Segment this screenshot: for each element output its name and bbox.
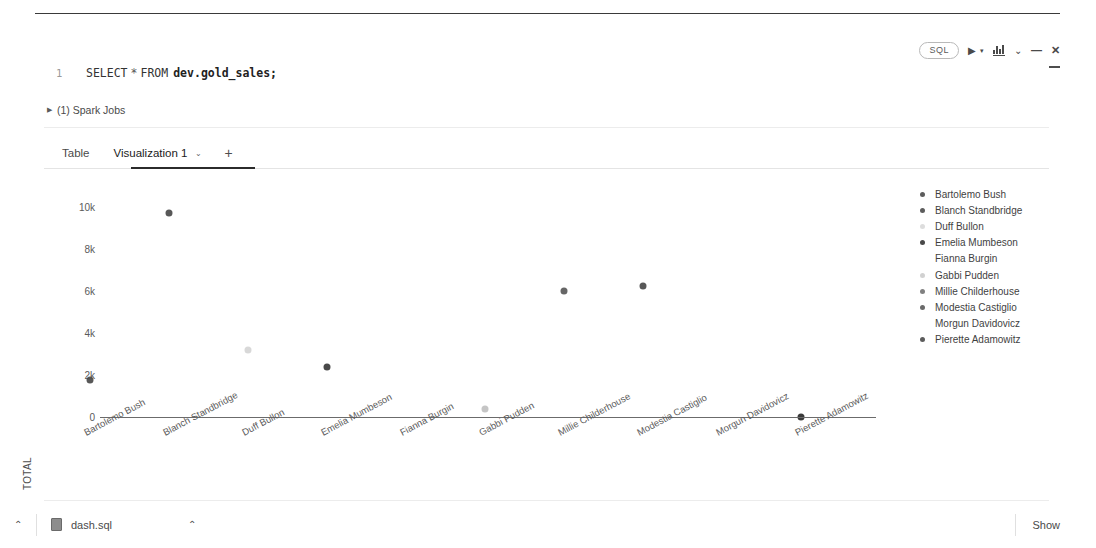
data-point[interactable]	[323, 363, 330, 370]
bottom-bar-right: Show	[1015, 514, 1096, 536]
legend-item[interactable]: Fianna Burgin	[920, 251, 1090, 267]
scrollbar-handle[interactable]	[1049, 66, 1060, 68]
chevron-down-icon[interactable]: ⌄	[195, 149, 202, 158]
y-tick-label: 4k	[53, 328, 95, 339]
spark-jobs-label: (1) Spark Jobs	[57, 104, 125, 116]
results-divider	[44, 127, 1049, 128]
legend-item[interactable]: Millie Childerhouse	[920, 283, 1090, 299]
result-tabs: Table Visualization 1 ⌄ +	[50, 138, 1050, 168]
chevron-down-icon[interactable]: ⌄	[1014, 46, 1022, 56]
sql-star: *	[128, 66, 141, 80]
legend-item[interactable]: Pierette Adamowitz	[920, 332, 1090, 348]
add-visualization-button[interactable]: +	[214, 146, 242, 160]
legend-label: Morgun Davidovicz	[935, 318, 1020, 329]
legend-swatch-icon	[920, 305, 925, 310]
spark-jobs-toggle[interactable]: ▶ (1) Spark Jobs	[47, 104, 125, 116]
run-options-caret-icon[interactable]: ▾	[980, 47, 984, 54]
legend-swatch-icon	[920, 240, 925, 245]
line-number: 1	[56, 67, 86, 79]
legend-item[interactable]: Duff Bullon	[920, 218, 1090, 234]
tab-visualization-1[interactable]: Visualization 1 ⌄	[102, 138, 215, 168]
sql-editor-line[interactable]: 1 SELECT * FROM dev.gold_sales;	[56, 66, 277, 80]
legend-item[interactable]: Bartolemo Bush	[920, 186, 1090, 202]
data-point[interactable]	[481, 406, 488, 413]
legend-item[interactable]: Morgun Davidovicz	[920, 316, 1090, 332]
chart-legend: Bartolemo BushBlanch StandbridgeDuff Bul…	[920, 186, 1090, 348]
sql-keyword-select: SELECT	[86, 66, 128, 80]
legend-label: Millie Childerhouse	[935, 286, 1019, 297]
sql-table-name: dev.gold_sales;	[173, 66, 277, 80]
legend-swatch-icon	[920, 192, 925, 197]
file-icon	[51, 518, 62, 531]
plot-area	[100, 172, 890, 432]
expand-triangle-icon: ▶	[47, 106, 52, 114]
legend-swatch-icon	[920, 208, 925, 213]
top-divider	[35, 13, 1060, 14]
run-icon[interactable]: ▶	[968, 46, 976, 56]
legend-swatch-icon	[920, 337, 925, 342]
data-point[interactable]	[560, 288, 567, 295]
file-name-label: dash.sql	[71, 519, 112, 531]
legend-swatch-icon	[920, 289, 925, 294]
bottom-bar: ⌃ dash.sql ⌃ Show	[0, 501, 1096, 548]
bar-chart-icon[interactable]	[993, 45, 1005, 56]
legend-label: Blanch Standbridge	[935, 205, 1022, 216]
close-icon[interactable]: ✕	[1051, 45, 1060, 56]
legend-item[interactable]: Blanch Standbridge	[920, 202, 1090, 218]
legend-label: Emelia Mumbeson	[935, 237, 1018, 248]
y-tick-label: 8k	[53, 244, 95, 255]
legend-item[interactable]: Modestia Castiglio	[920, 299, 1090, 315]
legend-item[interactable]: Emelia Mumbeson	[920, 235, 1090, 251]
cell-toolbar: SQL ▶ ▾ ⌄ — ✕	[919, 42, 1060, 59]
x-axis-labels: Bartolemo BushBlanch StandbridgeDuff Bul…	[0, 422, 1096, 502]
data-point[interactable]	[244, 347, 251, 354]
legend-label: Modestia Castiglio	[935, 302, 1017, 313]
legend-label: Gabbi Pudden	[935, 270, 999, 281]
file-menu-chevron-icon[interactable]: ⌃	[126, 519, 196, 530]
legend-label: Fianna Burgin	[935, 253, 997, 264]
notebook-cell-root: SQL ▶ ▾ ⌄ — ✕ 1 SELECT * FROM dev.gold_s…	[0, 0, 1096, 548]
show-button[interactable]: Show	[1032, 519, 1060, 531]
active-tab-indicator	[131, 167, 255, 169]
tab-table[interactable]: Table	[50, 138, 102, 168]
legend-label: Duff Bullon	[935, 221, 984, 232]
data-point[interactable]	[639, 283, 646, 290]
divider	[1015, 514, 1016, 536]
x-axis-line	[100, 417, 876, 418]
tab-visualization-label: Visualization 1	[114, 147, 188, 159]
sql-keyword-from: FROM	[140, 66, 168, 80]
legend-swatch-icon	[920, 224, 925, 229]
legend-label: Pierette Adamowitz	[935, 334, 1021, 345]
tab-table-label: Table	[62, 147, 90, 159]
open-file-tab[interactable]: dash.sql	[37, 518, 126, 531]
sql-language-badge[interactable]: SQL	[919, 42, 959, 59]
minimize-icon[interactable]: —	[1031, 45, 1042, 56]
y-tick-label: 6k	[53, 286, 95, 297]
legend-swatch-icon	[920, 273, 925, 278]
data-point[interactable]	[165, 210, 172, 217]
y-tick-label: 10k	[53, 202, 95, 213]
data-point[interactable]	[86, 377, 93, 384]
y-tick-label: 0	[53, 412, 95, 423]
collapse-chevron-icon[interactable]: ⌃	[0, 519, 36, 530]
legend-item[interactable]: Gabbi Pudden	[920, 267, 1090, 283]
legend-label: Bartolemo Bush	[935, 189, 1006, 200]
